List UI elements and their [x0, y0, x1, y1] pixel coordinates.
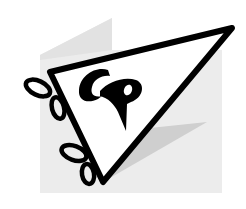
pennant-logo: CP	[0, 0, 246, 209]
